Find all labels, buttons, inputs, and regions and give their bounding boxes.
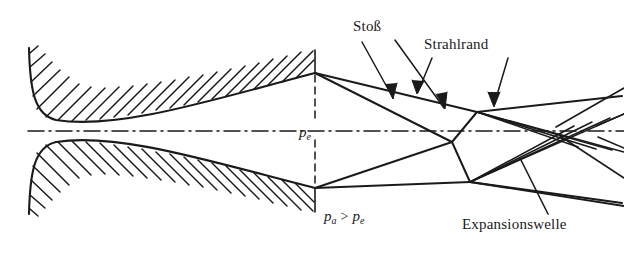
shock-upper-incident bbox=[315, 73, 452, 142]
shock-upper-reflected bbox=[452, 112, 477, 142]
ambient-pressure-subscript: a bbox=[332, 215, 337, 226]
jet-boundary-upper-downstream bbox=[477, 96, 622, 112]
expansion-reflection-lower-2 bbox=[596, 114, 624, 126]
exit-pressure-subscript: e bbox=[307, 131, 311, 142]
expansion-reflection-upper bbox=[560, 136, 624, 178]
label-exit-pressure: pe bbox=[299, 124, 311, 142]
strahlrand-leader-arrow-1 bbox=[412, 80, 424, 94]
expansion-reflection-lower bbox=[556, 88, 624, 127]
label-strahlrand: Strahlrand bbox=[424, 36, 488, 53]
label-stoss: Stoß bbox=[353, 18, 381, 35]
ambient-pressure-symbol: p bbox=[324, 208, 332, 224]
label-expansionswelle: Expansionswelle bbox=[462, 216, 567, 233]
relation-rhs-symbol: p bbox=[352, 208, 360, 224]
expansionswelle-leader-line bbox=[520, 158, 548, 214]
jet-boundary bbox=[315, 73, 622, 203]
exit-pressure-symbol: p bbox=[299, 124, 307, 140]
label-pressure-relation: pa>pe bbox=[324, 208, 364, 226]
slip-line-lower bbox=[470, 182, 624, 206]
shock-lower-incident bbox=[315, 142, 452, 188]
shock-lower-reflected bbox=[452, 142, 470, 182]
lower-nozzle-wall bbox=[29, 140, 315, 216]
jet-boundary-upper bbox=[315, 73, 477, 112]
strahlrand-leader-arrow-2 bbox=[488, 92, 500, 107]
relation-rhs-subscript: e bbox=[360, 215, 364, 226]
relation-operator: > bbox=[337, 209, 353, 224]
jet-boundary-lower bbox=[315, 182, 470, 188]
stoss-leader-arrow-2 bbox=[436, 92, 447, 109]
upper-nozzle-wall bbox=[26, 46, 316, 130]
